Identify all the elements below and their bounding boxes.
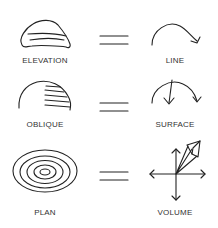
label-oblique: OBLIQUE [10,120,80,129]
equals-icon [100,103,128,111]
label-surface: SURFACE [140,120,210,129]
oblique-dome-icon [19,81,71,110]
volume-axes-icon [150,141,205,200]
surface-arc-icon [152,80,201,104]
line-arc-icon [152,24,200,45]
label-elevation: ELEVATION [10,56,80,65]
label-plan: PLAN [10,208,80,217]
plan-contour-icon [13,150,77,192]
equals-icon [100,36,128,44]
equals-icon [100,172,128,180]
elevation-profile-icon [21,20,70,47]
diagram-canvas [0,0,218,228]
label-volume: VOLUME [140,208,210,217]
label-line: LINE [140,56,210,65]
